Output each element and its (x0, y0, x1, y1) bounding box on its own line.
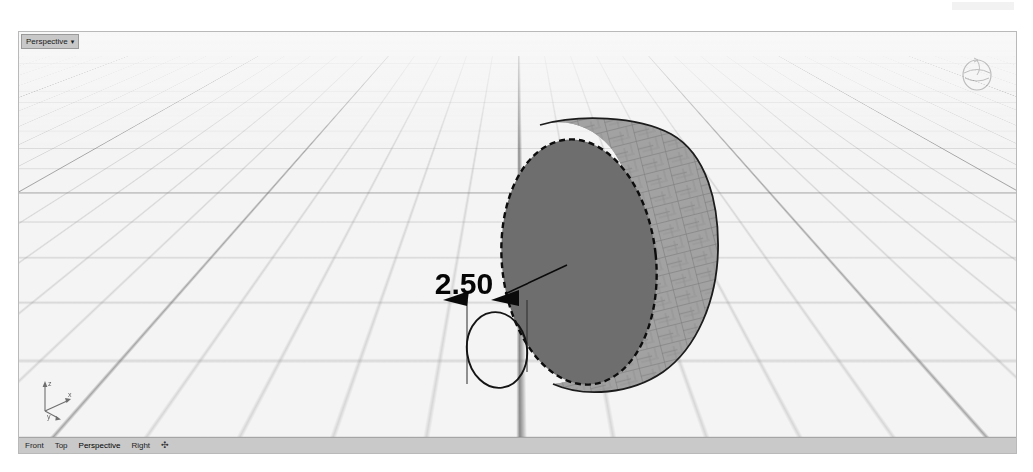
add-viewport-tab-icon[interactable]: ✣ (161, 438, 169, 453)
chevron-down-icon[interactable]: ▾ (71, 38, 75, 45)
viewport-tab-top[interactable]: Top (55, 438, 68, 453)
svg-text:z: z (48, 380, 52, 387)
svg-text:y: y (47, 413, 51, 421)
rotate-gizmo-icon[interactable] (956, 52, 998, 94)
world-axes-icon: z x y (27, 371, 79, 421)
dimension-text: 2.50 (435, 267, 493, 300)
viewport-tab-right[interactable]: Right (131, 438, 150, 453)
viewport-tab-front[interactable]: Front (25, 438, 44, 453)
page-background: Perspective ▾ z x y (0, 0, 1033, 472)
svg-text:x: x (68, 391, 72, 398)
cropped-toolbar-chip (952, 2, 1014, 10)
viewport-title-label: Perspective (26, 35, 68, 48)
scene-geometry[interactable]: 2.50 (19, 32, 1016, 453)
viewport-tab-strip[interactable]: FrontTopPerspectiveRight✣ (19, 437, 1016, 453)
viewport-title-button[interactable]: Perspective ▾ (21, 34, 79, 49)
viewport-tab-perspective[interactable]: Perspective (79, 438, 121, 453)
perspective-viewport[interactable]: Perspective ▾ z x y (18, 31, 1017, 454)
